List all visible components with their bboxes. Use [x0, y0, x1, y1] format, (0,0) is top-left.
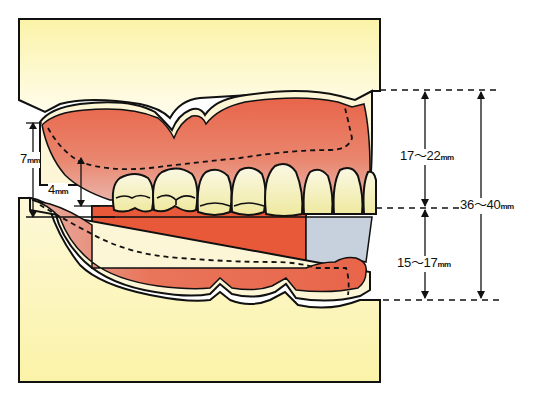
- label-7mm-value: 7: [20, 151, 27, 166]
- tooth-incisor-front: [364, 172, 377, 214]
- denture-diagram: [0, 0, 533, 393]
- tooth-premolar-1: [198, 170, 232, 215]
- tooth-incisor-central: [334, 168, 363, 214]
- tooth-molar-1: [113, 174, 153, 212]
- label-lower-height-value: 15～17: [397, 255, 437, 270]
- label-4mm-unit: mm: [55, 187, 68, 196]
- label-4mm-value: 4: [48, 182, 55, 197]
- tooth-incisor-lateral: [304, 170, 333, 214]
- label-total-height-unit: mm: [500, 202, 513, 211]
- label-total-height: 36～40mm: [460, 198, 514, 214]
- label-7mm-unit: mm: [27, 156, 40, 165]
- tooth-canine: [265, 164, 302, 216]
- label-lower-height: 15～17mm: [397, 256, 451, 272]
- label-4mm: 4mm: [48, 183, 68, 199]
- label-upper-height-unit: mm: [440, 153, 453, 162]
- tooth-premolar-2: [232, 168, 266, 215]
- label-upper-height: 17～22mm: [400, 149, 454, 165]
- tooth-molar-2: [153, 168, 197, 211]
- label-total-height-value: 36～40: [460, 197, 500, 212]
- label-upper-height-value: 17～22: [400, 148, 440, 163]
- label-lower-height-unit: mm: [437, 260, 450, 269]
- label-7mm: 7mm: [20, 152, 40, 168]
